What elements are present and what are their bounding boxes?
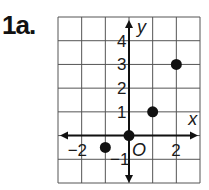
y-axis-arrow-up-icon — [125, 20, 133, 28]
y-tick-label: 2 — [117, 79, 126, 98]
y-tick-label: 3 — [117, 55, 126, 74]
y-tick-label: −1 — [110, 150, 129, 169]
data-point — [147, 106, 158, 117]
x-axis-arrow-right-icon — [190, 132, 198, 140]
data-point — [124, 130, 135, 141]
data-point — [171, 59, 182, 70]
y-tick-label: 1 — [117, 103, 126, 122]
y-axis-label: y — [135, 17, 147, 37]
x-tick-label: 2 — [171, 141, 180, 160]
x-axis-label: x — [187, 109, 198, 129]
x-axis-arrow-left-icon — [60, 132, 68, 140]
coordinate-plane: yxO4321−1−22 — [0, 0, 209, 190]
y-tick-label: 4 — [117, 32, 126, 51]
y-axis-arrow-down-icon — [125, 175, 133, 183]
x-tick-label: −2 — [68, 141, 87, 160]
data-point — [100, 142, 111, 153]
origin-label: O — [132, 140, 146, 160]
